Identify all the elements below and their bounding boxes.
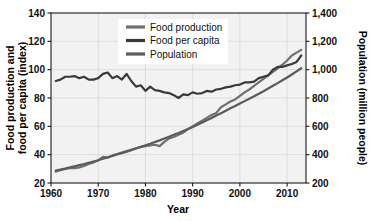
y2-tick-label: 200 [312,178,329,189]
y2-tick-label: 1,000 [312,64,337,75]
y-tick-label: 40 [34,149,46,160]
x-tick-label: 2010 [276,188,299,199]
chart-legend: Food productionFood per capitaPopulation [118,19,228,64]
y-tick-label: 100 [28,64,45,75]
legend-label-food-production: Food production [150,22,222,33]
y-tick-label: 60 [34,121,46,132]
y-axis-title: Food production and food per capita (ind… [4,42,28,155]
legend-label-food-per-capita: Food per capita [150,35,220,46]
x-tick-label: 1960 [40,188,63,199]
chart-canvas: 204060801001201402004006008001,0001,2001… [0,0,370,221]
y2-tick-label: 1,200 [312,36,337,47]
y2-tick-label: 600 [312,121,329,132]
y2-tick-label: 1,400 [312,8,337,19]
y2-axis-title: Population (million people) [357,31,369,166]
y-tick-label: 140 [28,8,45,19]
y-axis-title-line2: food per capita (index) [16,42,28,155]
x-tick-label: 1970 [87,188,110,199]
y-tick-label: 20 [34,178,46,189]
x-tick-label: 1990 [182,188,205,199]
y-tick-label: 120 [28,36,45,47]
y-tick-label: 80 [34,93,46,104]
y2-tick-label: 800 [312,93,329,104]
chart-figure: 204060801001201402004006008001,0001,2001… [0,0,370,221]
x-axis-title: Year [167,203,189,215]
x-tick-label: 2000 [229,188,252,199]
legend-label-population: Population [150,49,197,60]
y-axis-title-line1: Food production and [4,46,16,151]
y2-tick-label: 400 [312,149,329,160]
x-tick-label: 1980 [134,188,157,199]
